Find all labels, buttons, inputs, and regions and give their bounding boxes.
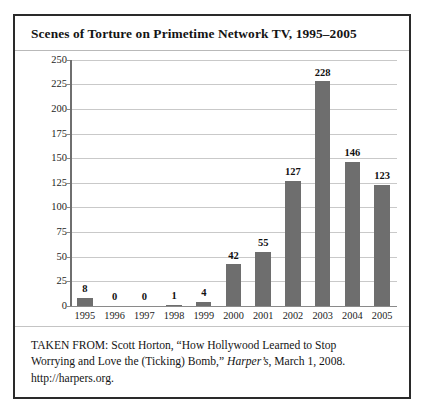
- x-axis-tick-labels: 1995199619971998199920002001200220032004…: [70, 308, 397, 322]
- x-tick-label: 2002: [278, 311, 308, 321]
- bar-value-label: 55: [248, 238, 278, 249]
- bar[interactable]: [374, 185, 389, 306]
- bar-slot: 4: [189, 51, 219, 326]
- figure-container: Scenes of Torture on Primetime Network T…: [13, 14, 411, 399]
- bar-value-label: 0: [129, 292, 159, 303]
- x-tick-label: 1998: [159, 311, 189, 321]
- bar-slot: 146: [338, 51, 368, 326]
- bar-slot: 0: [100, 51, 130, 326]
- source-caption: TAKEN FROM: Scott Horton, “How Hollywood…: [15, 327, 409, 397]
- x-tick-label: 1999: [189, 311, 219, 321]
- bar-value-label: 1: [159, 291, 189, 302]
- grid-area: 800144255127228146123: [70, 51, 397, 326]
- bar-slot: 8: [70, 51, 100, 326]
- caption-line-2-suffix: , March 1, 2008.: [268, 355, 345, 368]
- x-tick-label: 1997: [129, 311, 159, 321]
- x-tick-label: 2004: [338, 311, 368, 321]
- caption-line-1: TAKEN FROM: Scott Horton, “How Hollywood…: [31, 338, 393, 354]
- bar-slot: 1: [159, 51, 189, 326]
- bar-value-label: 8: [70, 284, 100, 295]
- x-tick-label: 1995: [70, 311, 100, 321]
- chart-title: Scenes of Torture on Primetime Network T…: [31, 27, 393, 42]
- bar-value-label: 4: [189, 288, 219, 299]
- x-tick-label: 2000: [219, 311, 249, 321]
- bar[interactable]: [226, 264, 241, 305]
- bar-value-label: 123: [367, 171, 397, 182]
- bar[interactable]: [345, 162, 360, 306]
- y-tick-label: 200: [51, 104, 67, 115]
- bar-value-label: 42: [219, 251, 249, 262]
- bar-value-label: 228: [308, 68, 338, 79]
- y-tick-label: 125: [51, 177, 67, 188]
- bar-slot: 42: [219, 51, 249, 326]
- y-tick-label: 250: [51, 54, 67, 65]
- bar-slot: 0: [129, 51, 159, 326]
- bar[interactable]: [255, 252, 270, 306]
- bar-slot: 127: [278, 51, 308, 326]
- bar[interactable]: [285, 181, 300, 306]
- bar-value-label: 0: [100, 292, 130, 303]
- title-band: Scenes of Torture on Primetime Network T…: [15, 16, 409, 51]
- y-axis-tick-labels: 0255075100125150175200225250: [23, 51, 67, 326]
- bar-value-label: 146: [338, 148, 368, 159]
- y-tick-label: 100: [51, 202, 67, 213]
- bar[interactable]: [315, 81, 330, 305]
- x-tick-label: 2001: [248, 311, 278, 321]
- x-tick-label: 2003: [308, 311, 338, 321]
- bar-slot: 228: [308, 51, 338, 326]
- caption-line-3-url: http://harpers.org.: [31, 371, 393, 387]
- bar-slot: 123: [367, 51, 397, 326]
- caption-publication-name: Harper’s: [227, 355, 268, 368]
- plot-area: 0255075100125150175200225250 80014425512…: [15, 51, 409, 327]
- bar-series: 800144255127228146123: [70, 51, 397, 326]
- y-tick-label: 175: [51, 128, 67, 139]
- bar[interactable]: [77, 298, 92, 306]
- y-tick-label: 150: [51, 153, 67, 164]
- x-tick-label: 1996: [100, 311, 130, 321]
- bar-slot: 55: [248, 51, 278, 326]
- y-tick-label: 225: [51, 79, 67, 90]
- bar-value-label: 127: [278, 167, 308, 178]
- caption-line-2-prefix: Worrying and Love the (Ticking) Bomb,”: [31, 355, 227, 368]
- bar[interactable]: [166, 305, 181, 306]
- x-tick-label: 2005: [367, 311, 397, 321]
- bar[interactable]: [196, 302, 211, 306]
- caption-line-2: Worrying and Love the (Ticking) Bomb,” H…: [31, 354, 393, 370]
